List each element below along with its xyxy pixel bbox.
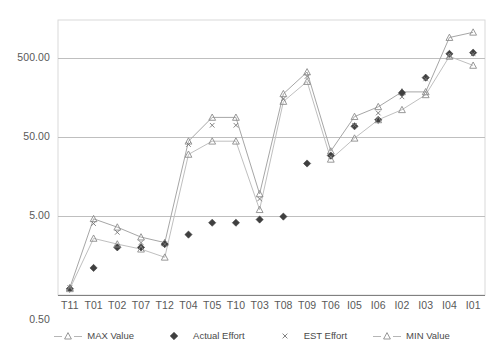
- y-tick-label-500.00: 500.00: [0, 51, 50, 63]
- legend-marker-triangle-open-icon: [373, 330, 401, 342]
- legend-marker-diamond-filled-icon: [160, 330, 188, 342]
- legend-label-max-value: MAX Value: [87, 330, 134, 342]
- legend-marker-x-icon: [271, 330, 299, 342]
- legend-item-max-value[interactable]: MAX Value: [54, 330, 134, 342]
- legend-item-est-effort[interactable]: EST Effort: [271, 330, 347, 342]
- y-tick-label-5.00: 5.00: [0, 209, 50, 221]
- log-scatter-line-chart: 0.505.0050.00500.00 T11T01T02T07T12T04T0…: [0, 0, 504, 364]
- y-tick-label-0.50: 0.50: [0, 313, 50, 325]
- y-tick-label-50.00: 50.00: [0, 130, 50, 142]
- legend-label-est-effort: EST Effort: [304, 330, 347, 342]
- legend-item-min-value[interactable]: MIN Value: [373, 330, 450, 342]
- legend-item-actual-effort[interactable]: Actual Effort: [160, 330, 245, 342]
- x-tick-label-I01: I01: [457, 299, 489, 311]
- legend-marker-triangle-open-icon: [54, 330, 82, 342]
- legend-label-min-value: MIN Value: [406, 330, 450, 342]
- legend-label-actual-effort: Actual Effort: [193, 330, 245, 342]
- chart-legend: MAX ValueActual Effort EST EffortMIN Val…: [0, 330, 504, 342]
